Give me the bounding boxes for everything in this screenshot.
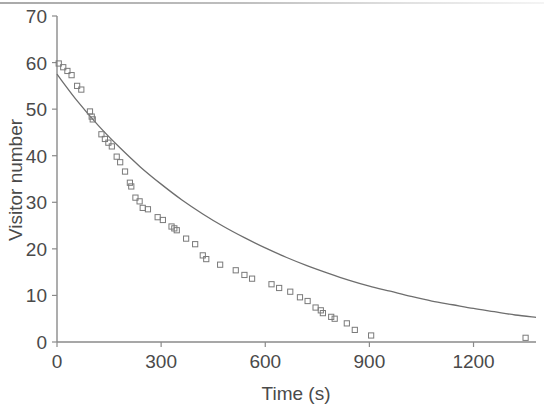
data-point-marker [200, 253, 205, 258]
y-tick-label: 10 [26, 285, 47, 306]
x-tick-label: 900 [354, 351, 386, 372]
data-point-marker [369, 333, 374, 338]
y-tick-labels: 010203040506070 [26, 6, 47, 353]
data-point-marker [140, 205, 145, 210]
chart-figure: 010203040506070 03006009001200 Time (s) … [0, 0, 544, 411]
x-tick-label: 600 [249, 351, 281, 372]
y-tick-label: 50 [26, 99, 47, 120]
data-point-marker [160, 217, 165, 222]
data-point-marker [249, 276, 254, 281]
data-point-marker [269, 282, 274, 287]
y-tick-label: 40 [26, 146, 47, 167]
exponential-fit-curve [57, 74, 536, 317]
data-point-marker [184, 236, 189, 241]
x-tick-marks [57, 342, 474, 347]
data-point-marker [218, 262, 223, 267]
data-point-marker [288, 289, 293, 294]
data-point-marker [305, 298, 310, 303]
x-axis-title: Time (s) [262, 383, 331, 404]
data-point-marker [329, 314, 334, 319]
data-point-marker [313, 305, 318, 310]
data-point-marker [118, 160, 123, 165]
plot-axes [57, 16, 536, 342]
y-tick-label: 60 [26, 53, 47, 74]
data-point-marker [277, 285, 282, 290]
data-point-marker [145, 207, 150, 212]
data-point-marker [193, 242, 198, 247]
y-tick-label: 20 [26, 239, 47, 260]
data-point-marker [109, 144, 114, 149]
data-point-markers [56, 61, 528, 341]
data-point-marker [233, 268, 238, 273]
y-tick-label: 30 [26, 192, 47, 213]
data-point-marker [344, 321, 349, 326]
x-tick-labels: 03006009001200 [52, 351, 495, 372]
data-point-marker [106, 140, 111, 145]
data-point-marker [297, 295, 302, 300]
data-point-marker [523, 335, 528, 340]
data-point-marker [242, 272, 247, 277]
data-point-marker [332, 316, 337, 321]
x-tick-label: 1200 [452, 351, 494, 372]
data-point-marker [114, 154, 119, 159]
x-tick-label: 300 [145, 351, 177, 372]
y-axis-title: Visitor number [5, 118, 26, 241]
y-tick-label: 70 [26, 6, 47, 27]
fit-curve-path [57, 74, 536, 317]
data-point-marker [155, 215, 160, 220]
data-point-marker [129, 184, 134, 189]
data-point-marker [204, 257, 209, 262]
data-point-marker [352, 327, 357, 332]
x-tick-label: 0 [52, 351, 63, 372]
visitor-decay-chart: 010203040506070 03006009001200 Time (s) … [0, 0, 544, 411]
data-point-marker [127, 180, 132, 185]
y-tick-label: 0 [36, 332, 47, 353]
data-point-marker [122, 169, 127, 174]
